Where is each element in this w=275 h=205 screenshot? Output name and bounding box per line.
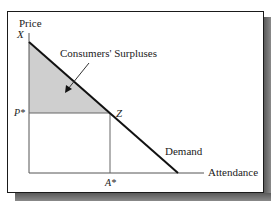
y-intercept-label: X: [16, 28, 25, 40]
price-equilibrium-label: P*: [13, 107, 25, 118]
consumer-surplus-diagram: Price X Consumers' Surpluses P* Z A* Dem…: [0, 0, 275, 205]
demand-curve-label: Demand: [165, 145, 203, 157]
equilibrium-point-label: Z: [116, 107, 123, 119]
consumer-surplus-label: Consumers' Surpluses: [60, 47, 157, 59]
x-axis-label: Attendance: [208, 166, 258, 178]
quantity-equilibrium-label: A*: [104, 177, 116, 188]
